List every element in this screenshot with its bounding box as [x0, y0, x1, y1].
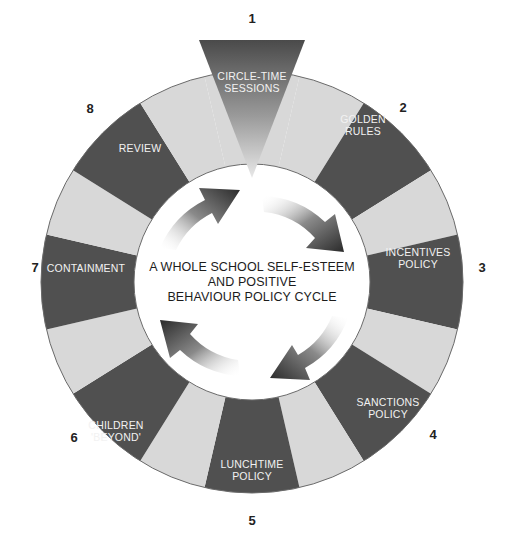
step-6-label: CHILDREN'BEYOND' [88, 419, 143, 443]
step-5-label: LUNCHTIMEPOLICY [220, 458, 283, 482]
step-5-number: 5 [248, 513, 255, 528]
step-2-label: GOLDENRULES [340, 113, 386, 137]
step-8-label: REVIEW [119, 142, 162, 154]
step-7-label: CONTAINMENT [47, 262, 125, 274]
step-4-number: 4 [429, 427, 436, 442]
title-line-1: A WHOLE SCHOOL SELF-ESTEEM [149, 260, 355, 275]
step-8-number: 8 [86, 101, 93, 116]
title-line-3: BEHAVIOUR POLICY CYCLE [149, 290, 355, 305]
diagram-title: A WHOLE SCHOOL SELF-ESTEEM AND POSITIVE … [149, 260, 355, 305]
step-4-label: SANCTIONSPOLICY [356, 396, 419, 420]
step-3-label: INCENTIVESPOLICY [385, 246, 450, 270]
step-2-number: 2 [399, 100, 406, 115]
step-1-label: CIRCLE-TIMESESSIONS [217, 70, 286, 94]
step-7-number: 7 [31, 260, 38, 275]
title-line-2: AND POSITIVE [149, 275, 355, 290]
step-3-number: 3 [478, 260, 485, 275]
step-1-number: 1 [248, 11, 255, 26]
step-6-number: 6 [70, 430, 77, 445]
